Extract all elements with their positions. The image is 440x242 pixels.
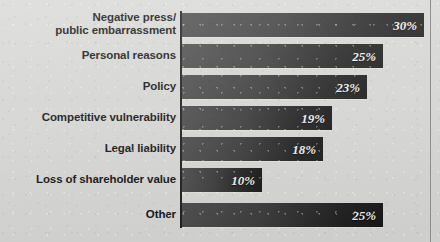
bar-row: Other 25% xyxy=(0,203,440,227)
bar-value-label: 23% xyxy=(336,81,367,94)
bar-value-label: 19% xyxy=(301,112,332,125)
bar: 25% xyxy=(182,44,383,68)
bar-row: Competitive vulnerability 19% xyxy=(0,106,440,130)
bar: 30% xyxy=(182,13,424,37)
bar-row: Negative press/ public embarrassment 30% xyxy=(0,13,440,37)
bar-row: Personal reasons 25% xyxy=(0,44,440,68)
category-label: Other xyxy=(0,208,176,221)
category-label: Loss of shareholder value xyxy=(0,173,176,186)
bar-row: Loss of shareholder value 10% xyxy=(0,168,440,192)
bar-value-label: 25% xyxy=(352,50,383,63)
category-axis-line xyxy=(180,11,182,228)
bar-value-label: 30% xyxy=(393,19,424,32)
bar-value-label: 10% xyxy=(231,174,262,187)
plot-area: Negative press/ public embarrassment 30%… xyxy=(0,0,440,242)
category-label: Policy xyxy=(0,80,176,93)
bar-chart-figure: Negative press/ public embarrassment 30%… xyxy=(0,0,440,242)
bar: 10% xyxy=(182,168,262,192)
category-label: Competitive vulnerability xyxy=(0,111,176,124)
category-label: Negative press/ public embarrassment xyxy=(0,11,176,37)
category-label: Legal liability xyxy=(0,142,176,155)
bar-value-label: 18% xyxy=(292,143,323,156)
bar: 19% xyxy=(182,106,332,130)
bar: 23% xyxy=(182,75,367,99)
bar-value-label: 25% xyxy=(352,209,383,222)
bar: 25% xyxy=(182,203,383,227)
bar-row: Policy 23% xyxy=(0,75,440,99)
bar: 18% xyxy=(182,137,323,161)
bar-row: Legal liability 18% xyxy=(0,137,440,161)
category-label: Personal reasons xyxy=(0,49,176,62)
page-rule-line xyxy=(430,0,431,242)
